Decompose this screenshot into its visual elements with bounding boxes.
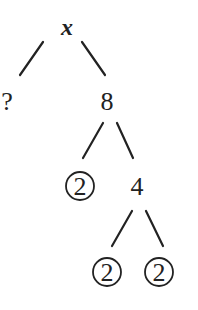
- node-4: 4: [131, 172, 144, 201]
- edge-4-to-2-right: [146, 211, 163, 246]
- edge-root-to-unknown: [20, 42, 43, 75]
- node-prime-2: 2: [74, 172, 87, 201]
- node-8: 8: [101, 87, 114, 116]
- edge-4-to-2-left: [112, 211, 132, 246]
- edge-root-to-8: [82, 42, 105, 75]
- node-prime-2: 2: [101, 258, 114, 287]
- edge-8-to-2: [83, 123, 103, 158]
- node-unknown: ?: [1, 87, 13, 116]
- node-prime-2: 2: [153, 258, 166, 287]
- root-node-x: x: [60, 14, 73, 40]
- factor-tree-diagram: x ? 8 2 4 2 2: [0, 0, 198, 310]
- edge-8-to-4: [117, 123, 133, 158]
